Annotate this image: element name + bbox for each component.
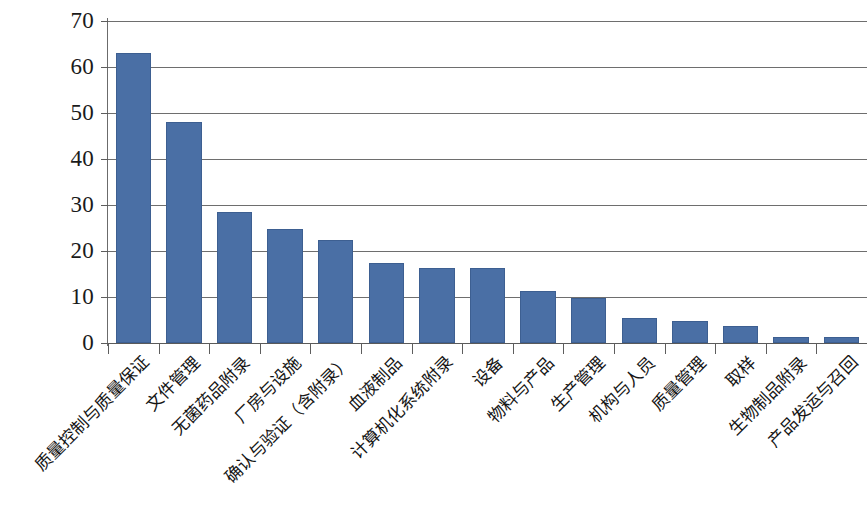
- bar: [622, 318, 657, 343]
- y-axis-tick-label: 10: [48, 285, 94, 308]
- x-axis-tick-mark: [816, 343, 817, 354]
- y-axis-tick-mark: [101, 67, 108, 68]
- x-axis-tick-marks: [108, 343, 867, 355]
- y-axis-tick-mark: [101, 159, 108, 160]
- x-axis-category-label: 取样: [722, 355, 759, 390]
- bar: [672, 321, 707, 343]
- bar-chart: 706050403020100 质量控制与质量保证文件管理无菌药品附录厂房与设施…: [0, 0, 867, 529]
- bars-group: [108, 0, 867, 344]
- x-axis-tick-mark: [260, 343, 261, 354]
- bar: [571, 298, 606, 343]
- y-axis-tick-labels: 706050403020100: [38, 0, 94, 343]
- bar: [520, 291, 555, 343]
- y-axis-tick-mark: [101, 205, 108, 206]
- bar: [318, 240, 353, 344]
- x-axis-category-labels: 质量控制与质量保证文件管理无菌药品附录厂房与设施确认与验证（含附录）血液制品计算…: [0, 355, 867, 529]
- bar: [116, 53, 151, 343]
- y-axis-tick-label: 50: [48, 101, 94, 124]
- x-axis-category-label: 计算机化系统附录: [347, 355, 457, 463]
- y-axis-tick-mark: [101, 343, 108, 344]
- x-axis-tick-mark: [462, 343, 463, 354]
- x-axis-tick-mark: [209, 343, 210, 354]
- y-axis-tick-mark: [101, 297, 108, 298]
- x-axis-tick-mark: [159, 343, 160, 354]
- bar: [470, 268, 505, 343]
- x-axis-category-label: 产品发运与召回: [764, 355, 862, 451]
- x-axis-category-label: 质量控制与质量保证: [31, 355, 153, 475]
- x-axis-tick-mark: [766, 343, 767, 354]
- y-axis-tick-mark: [101, 113, 108, 114]
- x-axis-tick-mark: [108, 343, 109, 354]
- x-axis-tick-mark: [715, 343, 716, 354]
- x-axis-tick-mark: [310, 343, 311, 354]
- y-axis-tick-mark: [101, 21, 108, 22]
- x-axis-tick-mark: [513, 343, 514, 354]
- y-axis-tick-label: 40: [48, 147, 94, 170]
- bar: [267, 229, 302, 343]
- bar: [166, 122, 201, 343]
- y-axis-tick-label: 60: [48, 55, 94, 78]
- x-axis-tick-mark: [412, 343, 413, 354]
- bar: [723, 326, 758, 343]
- x-axis-category-label: 设备: [469, 355, 506, 390]
- x-axis-tick-mark: [361, 343, 362, 354]
- bar: [369, 263, 404, 343]
- y-axis-tick-mark: [101, 251, 108, 252]
- y-axis-tick-label: 30: [48, 193, 94, 216]
- bar: [217, 212, 252, 343]
- bar: [419, 268, 454, 343]
- x-axis-tick-mark: [665, 343, 666, 354]
- y-axis-tick-label: 70: [48, 9, 94, 32]
- x-axis-tick-mark: [563, 343, 564, 354]
- y-axis-tick-label: 20: [48, 239, 94, 262]
- x-axis-tick-mark: [614, 343, 615, 354]
- y-axis-tick-label: 0: [48, 331, 94, 354]
